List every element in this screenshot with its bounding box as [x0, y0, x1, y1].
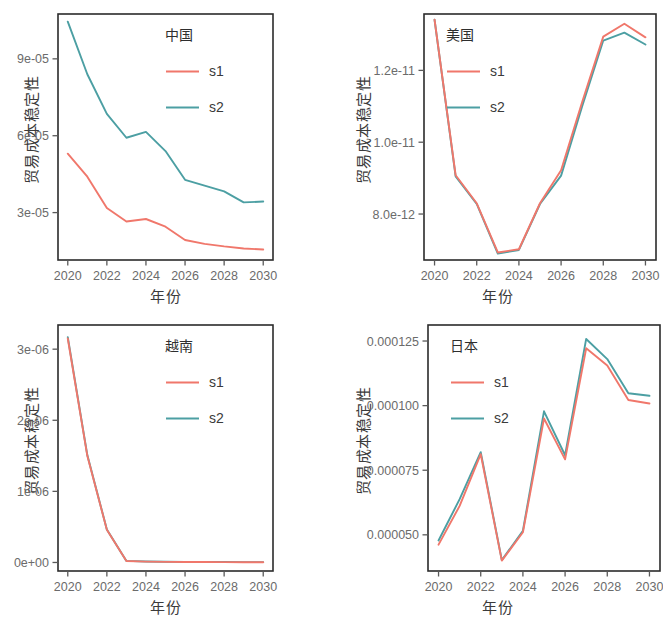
x-tick-label: 2028: [210, 269, 238, 283]
legend-label-s1: s1: [209, 374, 224, 390]
legend-label-s1: s1: [209, 63, 224, 79]
x-tick-label: 2020: [425, 580, 453, 594]
legend-label-s2: s2: [209, 99, 224, 115]
y-tick-label: 1.2e-11: [374, 64, 416, 78]
data-line-s2: [435, 20, 646, 254]
multi-panel-line-chart-figure: 贸易成本稳定性 年份 2020202220242026202820303e-05…: [0, 0, 663, 621]
data-line-s2: [68, 337, 263, 562]
y-tick-label: 8.0e-12: [373, 208, 415, 222]
y-tick-label: 1e-06: [17, 485, 49, 499]
panel-usa: 贸易成本稳定性 年份 2020202220242026202820308.0e-…: [332, 0, 663, 310]
plot-area-japan: 2020202220242026202820300.0000500.000075…: [332, 311, 663, 621]
x-tick-label: 2024: [509, 580, 537, 594]
x-tick-label: 2022: [467, 580, 495, 594]
x-tick-label: 2024: [132, 269, 160, 283]
legend-label-s1: s1: [490, 63, 505, 79]
x-tick-label: 2020: [54, 580, 82, 594]
legend-label-s1: s1: [494, 374, 509, 390]
data-line-s2: [439, 339, 650, 560]
data-line-s1: [439, 348, 650, 560]
y-tick-label: 0.000100: [367, 399, 419, 413]
panel-china: 贸易成本稳定性 年份 2020202220242026202820303e-05…: [0, 0, 331, 310]
x-tick-label: 2028: [210, 580, 238, 594]
x-tick-label: 2020: [421, 269, 449, 283]
x-tick-label: 2024: [132, 580, 160, 594]
y-tick-label: 0.000075: [367, 464, 419, 478]
x-tick-label: 2028: [593, 580, 621, 594]
legend-title: 美国: [446, 27, 474, 43]
plot-frame: [58, 325, 273, 571]
plot-area-usa: 2020202220242026202820308.0e-121.0e-111.…: [332, 0, 663, 310]
data-line-s1: [68, 154, 263, 250]
x-tick-label: 2020: [54, 269, 82, 283]
x-tick-label: 2028: [589, 269, 617, 283]
y-tick-label: 6e-05: [17, 129, 49, 143]
data-line-s1: [68, 339, 263, 563]
y-tick-label: 2e-06: [17, 414, 49, 428]
x-tick-label: 2026: [551, 580, 579, 594]
y-tick-label: 3e-06: [17, 343, 49, 357]
x-tick-label: 2030: [636, 580, 663, 594]
legend-label-s2: s2: [494, 410, 509, 426]
plot-frame: [428, 325, 660, 571]
y-tick-label: 0.000125: [367, 335, 419, 349]
y-tick-label: 0.000050: [367, 528, 419, 542]
y-tick-label: 0e+00: [14, 556, 49, 570]
y-tick-label: 3e-05: [17, 206, 49, 220]
panel-japan: 贸易成本稳定性 年份 2020202220242026202820300.000…: [332, 311, 663, 621]
x-tick-label: 2026: [171, 269, 199, 283]
legend-title: 中国: [165, 27, 193, 43]
x-tick-label: 2022: [93, 580, 121, 594]
data-line-s1: [435, 20, 646, 253]
plot-frame: [58, 14, 273, 260]
y-tick-label: 1.0e-11: [374, 136, 416, 150]
plot-area-vietnam: 2020202220242026202820300e+001e-062e-063…: [0, 311, 331, 621]
x-tick-label: 2024: [505, 269, 533, 283]
x-tick-label: 2030: [249, 580, 277, 594]
legend-title: 日本: [450, 338, 478, 354]
x-tick-label: 2030: [249, 269, 277, 283]
legend-title: 越南: [165, 338, 193, 354]
plot-frame: [424, 14, 656, 260]
x-tick-label: 2022: [93, 269, 121, 283]
x-tick-label: 2026: [171, 580, 199, 594]
x-tick-label: 2030: [632, 269, 660, 283]
x-tick-label: 2022: [463, 269, 491, 283]
data-line-s2: [68, 22, 263, 203]
panel-vietnam: 贸易成本稳定性 年份 2020202220242026202820300e+00…: [0, 311, 331, 621]
legend-label-s2: s2: [209, 410, 224, 426]
plot-area-china: 2020202220242026202820303e-056e-059e-05中…: [0, 0, 331, 310]
legend-label-s2: s2: [490, 99, 505, 115]
y-tick-label: 9e-05: [17, 52, 49, 66]
x-tick-label: 2026: [547, 269, 575, 283]
